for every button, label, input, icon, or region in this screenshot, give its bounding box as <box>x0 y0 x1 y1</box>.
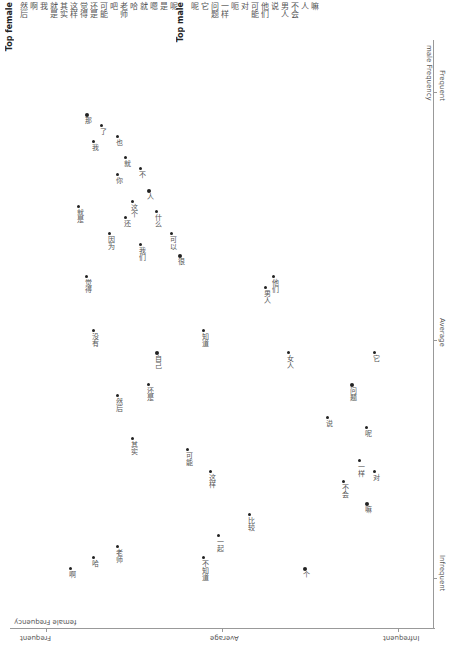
top-female-title: Top female <box>5 2 14 51</box>
data-point-label: 我们 <box>137 247 147 261</box>
top-female-legend-item: 嗯 <box>148 2 157 10</box>
top-male-legend-item: 男人 <box>279 2 288 18</box>
data-point[interactable] <box>202 329 205 332</box>
top-male-legend-item: 呃 <box>229 2 238 10</box>
top-male-legend-item: 不会 <box>289 2 298 18</box>
data-point-label: 其实 <box>129 441 139 455</box>
data-point-label: 它 <box>371 355 381 362</box>
data-point-label: 因为 <box>106 236 116 250</box>
data-point[interactable] <box>217 534 220 537</box>
top-male-legend-item: 问题 <box>209 2 218 18</box>
scatter-chart: Top female 然后啊我就是其实这样觉得还是可能吧老师哈就嗯是呢 Top … <box>0 0 457 665</box>
data-point[interactable] <box>116 135 119 138</box>
data-point[interactable] <box>92 329 95 332</box>
data-point-label: 那 <box>83 117 93 124</box>
data-point[interactable] <box>131 437 134 440</box>
data-point-label: 问题 <box>348 387 358 401</box>
data-point[interactable] <box>108 232 111 235</box>
top-male-legend-item: 呢 <box>189 2 198 10</box>
top-female-legend-item: 其实 <box>58 2 67 18</box>
data-point[interactable] <box>287 351 290 354</box>
data-point[interactable] <box>170 232 173 235</box>
x-tick <box>222 628 223 632</box>
top-female-legend-item: 哈 <box>128 2 137 10</box>
data-point[interactable] <box>131 200 134 203</box>
data-point[interactable] <box>186 448 189 451</box>
y-tick <box>433 92 437 93</box>
data-point[interactable] <box>342 480 345 483</box>
top-female-legend-item: 老师 <box>118 2 127 18</box>
data-point[interactable] <box>100 124 103 127</box>
data-point-label: 可能 <box>184 452 194 466</box>
top-female-legend-item: 吧 <box>108 2 117 10</box>
data-point[interactable] <box>69 567 72 570</box>
data-point[interactable] <box>147 383 150 386</box>
data-point-label: 比较 <box>246 517 256 531</box>
data-point[interactable] <box>358 459 361 462</box>
data-point-label: 就 <box>122 160 132 167</box>
data-point[interactable] <box>92 556 95 559</box>
data-point-label: 什么 <box>153 214 163 228</box>
data-point-label: 老师 <box>114 549 124 563</box>
y-tick <box>433 340 437 341</box>
top-female-legend-item: 然后 <box>18 2 27 18</box>
data-point[interactable] <box>209 470 212 473</box>
data-point[interactable] <box>264 286 267 289</box>
data-point-label: 很 <box>176 258 186 265</box>
data-point-label: 觉得 <box>83 279 93 293</box>
data-point[interactable] <box>155 210 158 213</box>
y-axis-title: male Frequency <box>425 45 433 101</box>
top-female-legend-item: 就是 <box>48 2 57 18</box>
data-point-label: 不知道 <box>200 560 210 581</box>
data-point[interactable] <box>272 275 275 278</box>
data-point[interactable] <box>326 416 329 419</box>
data-point-label: 男人 <box>262 290 272 304</box>
data-point[interactable] <box>116 394 119 397</box>
data-point[interactable] <box>77 205 80 208</box>
top-female-legend-item: 这样 <box>68 2 77 18</box>
top-female-legend-item: 可能 <box>98 2 107 18</box>
data-point-label: 然后 <box>114 398 124 412</box>
data-point[interactable] <box>124 156 127 159</box>
data-point[interactable] <box>365 426 368 429</box>
data-point[interactable] <box>85 275 88 278</box>
data-point-label: 对 <box>371 474 381 481</box>
data-point[interactable] <box>92 140 95 143</box>
data-point-label: 一样 <box>356 463 366 477</box>
data-point-label: 啊 <box>67 571 77 578</box>
top-female-legend-item: 还是 <box>88 2 97 18</box>
data-point-label: 呢 <box>363 430 373 437</box>
data-point[interactable] <box>139 243 142 246</box>
data-point[interactable] <box>116 173 119 176</box>
data-point-label: 还 <box>122 220 132 227</box>
data-point-label: 个 <box>301 571 311 578</box>
data-point-label: 这个 <box>129 204 139 218</box>
data-point-label: 就是 <box>75 209 85 223</box>
top-male-legend-item: 他们 <box>259 2 268 18</box>
y-tick-label-infrequent: Infrequent <box>438 555 446 591</box>
data-point-label: 女人 <box>285 355 295 369</box>
top-female-legend-item: 觉得 <box>78 2 87 18</box>
data-point-label: 一起 <box>215 538 225 552</box>
y-tick <box>433 578 437 579</box>
data-point[interactable] <box>373 351 376 354</box>
top-male-legend-item: 它 <box>199 2 208 10</box>
data-point[interactable] <box>139 167 142 170</box>
data-point[interactable] <box>124 216 127 219</box>
data-point[interactable] <box>202 556 205 559</box>
x-tick <box>398 628 399 632</box>
data-point-label: 自己 <box>153 355 163 369</box>
x-tick-label-frequent: Frequent <box>20 634 51 642</box>
top-male-legend-item: 可能 <box>249 2 258 18</box>
top-male-legend-item: 对 <box>239 2 248 10</box>
top-female-legend-item: 就 <box>138 2 147 10</box>
data-point-label: 不会 <box>340 484 350 498</box>
x-tick <box>46 628 47 632</box>
y-tick-label-frequent: Frequent <box>438 70 446 101</box>
data-point-label: 了 <box>98 128 108 135</box>
data-point-label: 还是 <box>145 387 155 401</box>
data-point[interactable] <box>116 545 119 548</box>
data-point[interactable] <box>248 513 251 516</box>
data-point-label: 我 <box>90 144 100 151</box>
data-point[interactable] <box>373 470 376 473</box>
